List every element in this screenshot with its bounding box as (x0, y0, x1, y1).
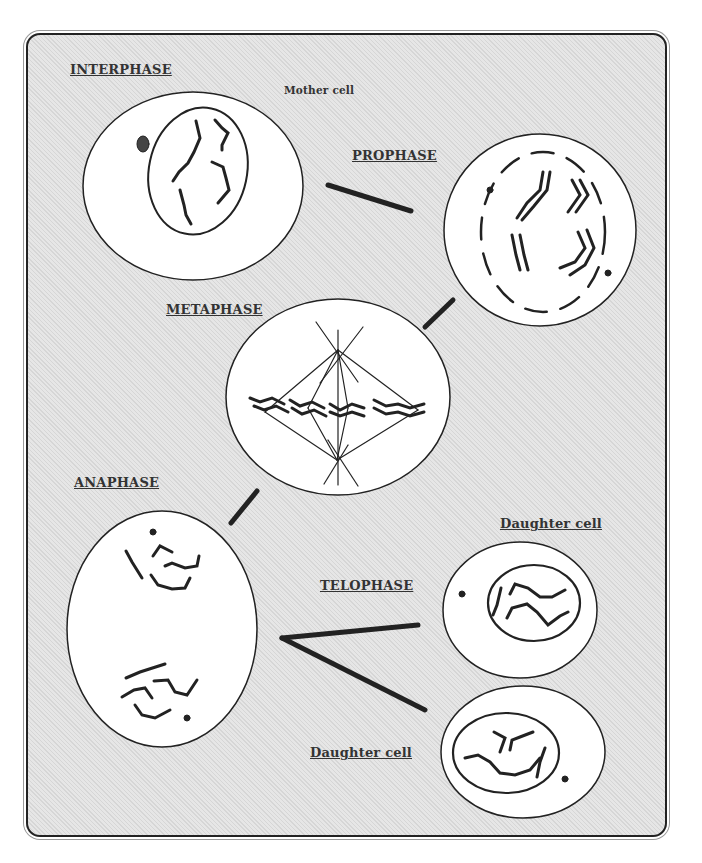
daughter-cell-top (443, 542, 597, 678)
prophase-cell (444, 134, 636, 326)
stage-label-anaphase: ANAPHASE (74, 475, 159, 490)
daughter-cell-label-bottom: Daughter cell (310, 745, 412, 760)
mitosis-diagram (0, 0, 702, 863)
stage-label-interphase: INTERPHASE (70, 62, 172, 77)
anaphase-cell (67, 511, 257, 747)
mother-cell-label: Mother cell (284, 84, 354, 96)
daughter-cell-bottom (441, 686, 605, 818)
stage-label-prophase: PROPHASE (352, 148, 437, 163)
interphase-cell (83, 92, 303, 280)
stage-label-telophase: TELOPHASE (320, 578, 413, 593)
metaphase-cell (226, 299, 450, 495)
daughter-cell-label-top: Daughter cell (500, 516, 602, 531)
stage-label-metaphase: METAPHASE (166, 302, 263, 317)
